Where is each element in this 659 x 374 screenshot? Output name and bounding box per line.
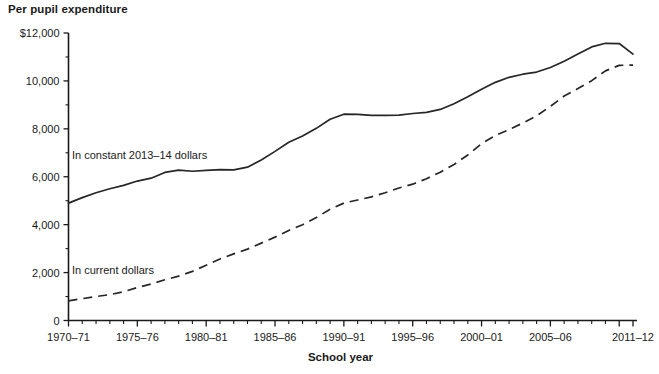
svg-text:1980–81: 1980–81	[185, 331, 228, 343]
svg-text:10,000: 10,000	[26, 75, 60, 87]
svg-text:6,000: 6,000	[32, 171, 60, 183]
svg-text:2000–01: 2000–01	[460, 331, 503, 343]
series-label-constant-dollars: In constant 2013–14 dollars	[72, 149, 208, 161]
x-axis-title-text: School year	[308, 351, 373, 363]
series-label-current-dollars: In current dollars	[72, 264, 154, 276]
x-axis-title: School year	[0, 351, 659, 363]
series-line-constant-dollars	[69, 43, 634, 203]
svg-text:1985–86: 1985–86	[254, 331, 297, 343]
svg-text:1970–71: 1970–71	[47, 331, 90, 343]
x-axis-tick-labels: 1970–711975–761980–811985–861990–911995–…	[47, 331, 654, 343]
svg-text:8,000: 8,000	[32, 123, 60, 135]
svg-text:1990–91: 1990–91	[322, 331, 365, 343]
series-annotations: In constant 2013–14 dollarsIn current do…	[72, 149, 208, 276]
svg-text:1975–76: 1975–76	[116, 331, 159, 343]
svg-text:2011–12: 2011–12	[612, 331, 654, 343]
line-chart-plot: 02,0004,0006,0008,00010,000$12,000 1970–…	[0, 0, 659, 374]
svg-text:2005–06: 2005–06	[529, 331, 572, 343]
svg-text:0: 0	[53, 315, 59, 327]
x-axis-ticks	[69, 321, 634, 327]
svg-text:1995–96: 1995–96	[391, 331, 434, 343]
svg-text:4,000: 4,000	[32, 219, 60, 231]
y-axis-tick-labels: 02,0004,0006,0008,00010,000$12,000	[20, 27, 60, 327]
chart-container: Per pupil expenditure 02,0004,0006,0008,…	[0, 0, 659, 374]
svg-text:2,000: 2,000	[32, 267, 60, 279]
svg-text:$12,000: $12,000	[20, 27, 60, 39]
